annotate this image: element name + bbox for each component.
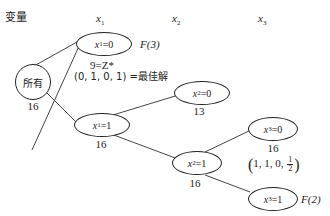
node-x3-eq-0: x3=0 (248, 117, 298, 141)
bound-x3-0: 16 (258, 142, 288, 154)
edge-x2_1-x3_0 (205, 130, 251, 152)
fathom-tag-x1-0: F(3) (140, 38, 160, 50)
column-x2-header: x2 (172, 12, 180, 29)
column-x1-header: x1 (96, 12, 104, 29)
lp-solution-x3-0: (1, 1, 0, 12) (248, 156, 300, 173)
bound-x1-1: 16 (86, 138, 116, 150)
edge-root-x1_0-b (34, 42, 77, 66)
bound-x2-0: 13 (184, 105, 214, 117)
node-x1-eq-0: x1=0 (76, 32, 132, 56)
edge-x1_1-x2_1 (111, 134, 178, 159)
bound-x2-1: 16 (180, 177, 210, 189)
tree-edges (0, 0, 330, 216)
variables-label: 变量 (5, 12, 27, 24)
node-x1-eq-1: x1=1 (74, 113, 130, 137)
root-node: 所有 (15, 64, 51, 100)
fraction-half: 12 (287, 156, 293, 173)
best-solution-note: (0, 1, 0, 1) =最佳解 (74, 71, 168, 83)
node-x2-eq-1: x2=1 (172, 151, 222, 175)
incumbent-value: 9=Z* (90, 59, 114, 71)
column-x3-header: x3 (258, 12, 266, 29)
node-x3-eq-1: x3=1 (248, 187, 298, 211)
root-bound: 16 (18, 100, 48, 112)
edge-x2_1-x3_1 (205, 175, 250, 192)
node-x2-eq-0: x2=0 (174, 81, 230, 105)
fathom-tag-x3-1: F(2) (301, 193, 321, 205)
